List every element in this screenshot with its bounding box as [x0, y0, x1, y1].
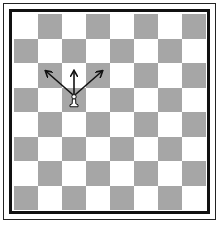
board-square[interactable]	[14, 161, 38, 186]
board-square[interactable]	[134, 186, 158, 211]
board-square[interactable]	[182, 39, 206, 64]
board-square[interactable]	[158, 39, 182, 64]
board-square[interactable]	[86, 112, 110, 137]
board-square[interactable]	[62, 39, 86, 64]
board-square[interactable]	[182, 161, 206, 186]
board-square[interactable]	[134, 39, 158, 64]
board-square[interactable]	[62, 63, 86, 88]
board-square[interactable]	[110, 161, 134, 186]
board-square[interactable]	[86, 63, 110, 88]
board-square[interactable]	[158, 63, 182, 88]
board-square[interactable]	[14, 88, 38, 113]
board-square[interactable]	[158, 88, 182, 113]
board-square[interactable]	[110, 14, 134, 39]
board-square[interactable]	[158, 137, 182, 162]
board-square[interactable]	[86, 39, 110, 64]
board-square[interactable]	[14, 14, 38, 39]
board-square[interactable]	[38, 161, 62, 186]
board-square[interactable]	[182, 88, 206, 113]
board-square[interactable]	[182, 14, 206, 39]
board-square[interactable]	[110, 63, 134, 88]
board-square[interactable]	[182, 112, 206, 137]
board-square[interactable]	[14, 186, 38, 211]
board-square[interactable]	[134, 161, 158, 186]
board-square[interactable]	[182, 137, 206, 162]
board-square[interactable]	[38, 112, 62, 137]
board-square[interactable]	[134, 14, 158, 39]
board-square[interactable]	[14, 112, 38, 137]
board-square[interactable]	[14, 63, 38, 88]
board-square[interactable]	[38, 14, 62, 39]
board-square[interactable]	[62, 161, 86, 186]
board-square[interactable]	[62, 137, 86, 162]
board-square[interactable]	[182, 186, 206, 211]
board-square[interactable]	[86, 186, 110, 211]
board-square[interactable]	[62, 14, 86, 39]
board-square[interactable]	[134, 63, 158, 88]
chess-board	[14, 14, 206, 210]
board-square[interactable]	[86, 14, 110, 39]
board-square[interactable]	[62, 112, 86, 137]
board-square[interactable]	[38, 186, 62, 211]
board-square[interactable]	[134, 137, 158, 162]
board-square[interactable]	[38, 137, 62, 162]
board-square[interactable]	[110, 88, 134, 113]
board-square[interactable]	[158, 112, 182, 137]
board-square[interactable]	[110, 39, 134, 64]
board-square[interactable]	[158, 161, 182, 186]
board-square[interactable]	[110, 186, 134, 211]
board-square[interactable]	[86, 88, 110, 113]
board-square[interactable]	[86, 137, 110, 162]
board-square[interactable]	[86, 161, 110, 186]
board-square[interactable]	[158, 14, 182, 39]
board-square[interactable]	[62, 88, 86, 113]
board-square[interactable]	[110, 137, 134, 162]
board-square[interactable]	[110, 112, 134, 137]
board-square[interactable]	[38, 88, 62, 113]
board-square[interactable]	[134, 112, 158, 137]
board-square[interactable]	[14, 137, 38, 162]
board-square[interactable]	[158, 186, 182, 211]
board-square[interactable]	[14, 39, 38, 64]
board-square[interactable]	[62, 186, 86, 211]
board-square[interactable]	[38, 39, 62, 64]
board-square[interactable]	[134, 88, 158, 113]
board-square[interactable]	[38, 63, 62, 88]
board-square[interactable]	[182, 63, 206, 88]
